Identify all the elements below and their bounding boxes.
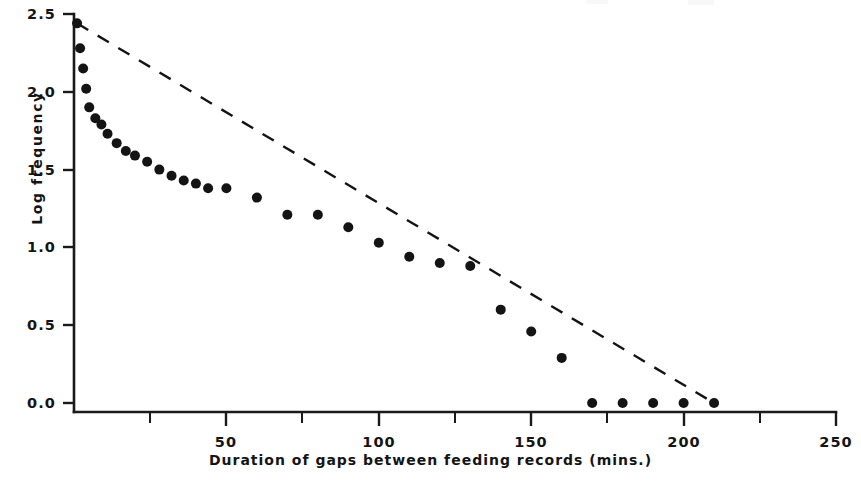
- data-point: [167, 171, 177, 181]
- data-point: [557, 353, 567, 363]
- y-tick-label-2.0: 2.0: [0, 84, 56, 100]
- data-point: [374, 238, 384, 248]
- data-point: [84, 102, 94, 112]
- data-point: [679, 398, 689, 408]
- data-point: [313, 210, 323, 220]
- data-point: [221, 183, 231, 193]
- x-axis-ticks: [150, 412, 836, 426]
- x-axis-label: Duration of gaps between feeding records…: [0, 452, 861, 468]
- data-point: [618, 398, 628, 408]
- data-point: [282, 210, 292, 220]
- data-point: [343, 222, 353, 232]
- data-point: [252, 193, 262, 203]
- axes-group: [63, 14, 836, 426]
- y-tick-label-0.0: 0.0: [0, 395, 56, 411]
- data-point: [179, 175, 189, 185]
- x-tick-label-250: 250: [796, 434, 861, 450]
- data-point: [648, 398, 658, 408]
- figure-panel: 2.5 2.0 1.5 1.0 0.5 0.0 50 100 150 200 2…: [0, 0, 861, 488]
- y-axis-ticks: [63, 14, 74, 403]
- data-point: [130, 151, 140, 161]
- data-point: [121, 146, 131, 156]
- fitted-line-group: [77, 23, 714, 403]
- data-point: [103, 129, 113, 139]
- x-tick-label-200: 200: [644, 434, 724, 450]
- y-axis-label: Log frequency: [29, 73, 45, 243]
- data-point: [404, 252, 414, 262]
- data-point: [78, 63, 88, 73]
- data-point: [465, 261, 475, 271]
- data-point: [96, 119, 106, 129]
- data-point: [81, 84, 91, 94]
- data-point: [526, 326, 536, 336]
- data-point: [75, 43, 85, 53]
- y-tick-label-0.5: 0.5: [0, 317, 56, 333]
- y-tick-label-1.5: 1.5: [0, 162, 56, 178]
- data-point: [709, 398, 719, 408]
- data-point: [203, 183, 213, 193]
- x-tick-label-150: 150: [491, 434, 571, 450]
- data-point: [435, 258, 445, 268]
- y-tick-label-2.5: 2.5: [0, 6, 56, 22]
- plot-canvas: [0, 0, 861, 488]
- x-tick-label-100: 100: [339, 434, 419, 450]
- data-point: [587, 398, 597, 408]
- data-point: [496, 305, 506, 315]
- data-point: [112, 138, 122, 148]
- x-tick-label-50: 50: [186, 434, 266, 450]
- data-point: [154, 165, 164, 175]
- data-point: [142, 157, 152, 167]
- data-point: [72, 18, 82, 28]
- fitted-exponential-line: [77, 23, 714, 403]
- y-tick-label-1.0: 1.0: [0, 239, 56, 255]
- data-point: [191, 179, 201, 189]
